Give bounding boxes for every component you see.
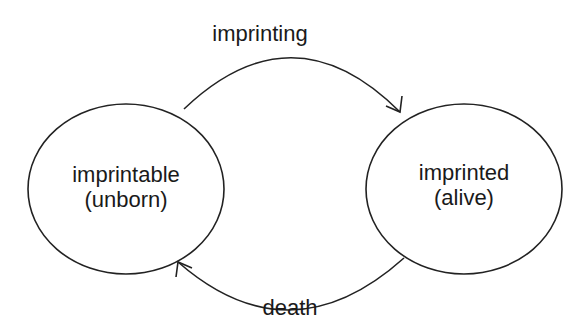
node-imprintable-title: imprintable [46,162,206,187]
edge-imprinting-arrowhead-icon [386,96,402,112]
node-imprintable-label: imprintable (unborn) [46,162,206,212]
node-imprinted-title: imprinted [384,160,544,185]
edge-death-arrowhead-icon [176,262,192,277]
node-imprinted-subtitle: (alive) [384,185,544,210]
edge-imprinting-arc [184,58,400,112]
edge-label-death: death [240,295,340,320]
edge-label-imprinting: imprinting [190,21,330,46]
node-imprinted-label: imprinted (alive) [384,160,544,210]
node-imprintable-subtitle: (unborn) [46,187,206,212]
